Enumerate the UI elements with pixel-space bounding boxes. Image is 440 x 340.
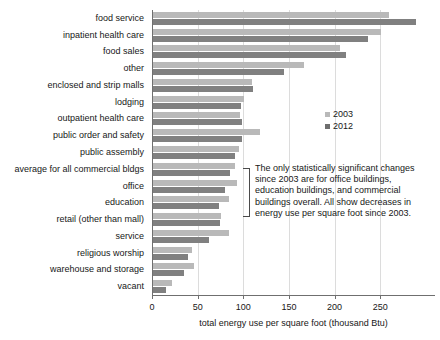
bar-group: [153, 263, 436, 276]
bar-2012: [153, 153, 235, 159]
bar-2003: [153, 12, 389, 18]
bar-2012: [153, 86, 253, 92]
bar-group: [153, 45, 436, 58]
x-tick-label: 100: [236, 302, 251, 312]
bar-2012: [153, 287, 166, 293]
bar-2012: [153, 187, 225, 193]
bar-2012: [153, 237, 209, 243]
bar-2003: [153, 213, 221, 219]
x-tick-mark: [289, 295, 290, 299]
legend-label-2003: 2003: [333, 108, 353, 120]
bar-group: [153, 79, 436, 92]
bar-2003: [153, 146, 239, 152]
category-label: retail (other than mall): [56, 214, 144, 224]
x-tick-label: 150: [281, 302, 296, 312]
significance-annotation: The only statistically significant chang…: [255, 163, 430, 219]
category-label: public order and safety: [53, 130, 144, 140]
category-label: other: [123, 63, 144, 73]
bar-group: [153, 62, 436, 75]
bar-2003: [153, 79, 252, 85]
bar-2003: [153, 163, 235, 169]
bar-2012: [153, 170, 230, 176]
bar-2012: [153, 254, 188, 260]
bar-2012: [153, 19, 416, 25]
bar-2003: [153, 196, 229, 202]
bar-2012: [153, 220, 220, 226]
bar-group: [153, 280, 436, 293]
bar-2003: [153, 180, 237, 186]
x-tick-mark: [198, 295, 199, 299]
bar-2012: [153, 103, 241, 109]
x-tick-label: 0: [149, 302, 154, 312]
bar-2012: [153, 36, 368, 42]
x-tick-mark: [152, 295, 153, 299]
x-tick-mark: [243, 295, 244, 299]
x-tick-mark: [335, 295, 336, 299]
bar-2003: [153, 96, 244, 102]
x-axis-title: total energy use per square foot (thousa…: [152, 318, 435, 329]
category-label: enclosed and strip malls: [47, 80, 144, 90]
bar-group: [153, 146, 436, 159]
category-label: vacant: [117, 281, 144, 291]
bar-2012: [153, 203, 219, 209]
legend-swatch-2003-icon: [325, 112, 330, 117]
bar-2003: [153, 62, 304, 68]
category-label: office: [123, 181, 144, 191]
bar-group: [153, 129, 436, 142]
category-label: warehouse and storage: [50, 264, 144, 274]
bar-2003: [153, 112, 240, 118]
legend: 2003 2012: [325, 108, 353, 132]
category-label: public assembly: [80, 147, 144, 157]
bar-group: [153, 112, 436, 125]
energy-use-bar-chart: food serviceinpatient health carefood sa…: [0, 0, 440, 340]
bar-group: [153, 96, 436, 109]
category-label: inpatient health care: [63, 30, 144, 40]
category-axis-labels: food serviceinpatient health carefood sa…: [0, 10, 148, 295]
x-tick-label: 250: [373, 302, 388, 312]
plot-area: 050100150200250: [152, 10, 435, 295]
x-tick-label: 200: [327, 302, 342, 312]
category-label: food sales: [103, 46, 144, 56]
category-label: religious worship: [77, 248, 144, 258]
x-tick-label: 50: [193, 302, 203, 312]
bar-2012: [153, 270, 184, 276]
bar-group: [153, 12, 436, 25]
significance-bracket: [243, 168, 250, 217]
bar-2003: [153, 45, 340, 51]
bar-2003: [153, 247, 192, 253]
bar-2012: [153, 119, 242, 125]
bar-2012: [153, 52, 346, 58]
bar-2003: [153, 230, 229, 236]
bar-2012: [153, 69, 284, 75]
legend-swatch-2012-icon: [325, 124, 330, 129]
x-tick-mark: [380, 295, 381, 299]
category-label: lodging: [115, 97, 144, 107]
bar-2003: [153, 280, 172, 286]
category-axis-line: [152, 295, 435, 296]
category-label: food service: [95, 13, 144, 23]
category-label: outpatient health care: [57, 113, 144, 123]
bar-group: [153, 29, 436, 42]
category-label: education: [105, 197, 144, 207]
bar-group: [153, 247, 436, 260]
bar-2012: [153, 136, 242, 142]
bar-group: [153, 230, 436, 243]
legend-item-2012: 2012: [325, 120, 353, 132]
category-label: average for all commercial bldgs: [14, 164, 144, 174]
bar-2003: [153, 29, 381, 35]
bar-2003: [153, 129, 260, 135]
bar-2003: [153, 263, 194, 269]
legend-item-2003: 2003: [325, 108, 353, 120]
legend-label-2012: 2012: [333, 120, 353, 132]
category-label: service: [115, 231, 144, 241]
